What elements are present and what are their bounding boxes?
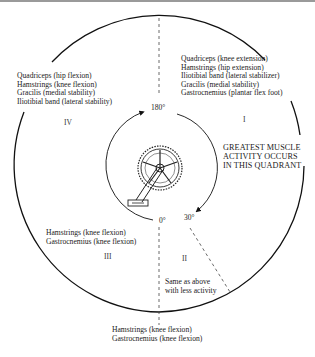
- quadrant-ii-note: Same as above with less activity: [165, 278, 216, 295]
- outer-circle-arc-left: [14, 112, 159, 312]
- quadrant-i-muscle-list: Quadriceps (knee extension) Hamstrings (…: [181, 55, 282, 98]
- quadrant-iv-muscle-list: Quadriceps (hip flexion) Hamstrings (kne…: [17, 72, 112, 106]
- note-line: with less activity: [165, 287, 216, 296]
- muscle-label: Gastrocnemius (knee flexion): [46, 238, 136, 247]
- callout-line: IN THIS QUADRANT: [223, 161, 301, 170]
- greatest-activity-callout: GREATEST MUSCLE ACTIVITY OCCURS IN THIS …: [223, 143, 301, 171]
- quadrant-iii-label: III: [104, 252, 112, 261]
- muscle-label: Iliotibial band (lateral stability): [17, 98, 112, 107]
- bottom-muscle-list: Hamstrings (knee flexion) Gastrocnemius …: [112, 326, 202, 343]
- angle-0-label: 0°: [159, 216, 166, 225]
- quadrant-iii-muscle-list: Hamstrings (knee flexion) Gastrocnemius …: [46, 229, 136, 246]
- muscle-label: Gastrocnemius (knee flexion): [112, 335, 202, 344]
- angle-180-label: 180°: [151, 103, 165, 112]
- muscle-label: Gastrocnemius (plantar flex foot): [181, 89, 282, 98]
- angle-30-label: 30°: [184, 213, 195, 222]
- quadrant-iv-label: IV: [64, 118, 72, 127]
- callout-line: GREATEST MUSCLE: [223, 143, 301, 152]
- quadrant-ii-label: II: [182, 254, 187, 263]
- outer-circle-arc-right-upper: [291, 101, 300, 135]
- quadrant-i-label: I: [243, 115, 246, 124]
- callout-line: ACTIVITY OCCURS: [223, 152, 301, 161]
- rotation-arrow-left: [106, 112, 153, 220]
- crankset-icon: [128, 146, 182, 206]
- rotation-arrow-right: [177, 114, 217, 211]
